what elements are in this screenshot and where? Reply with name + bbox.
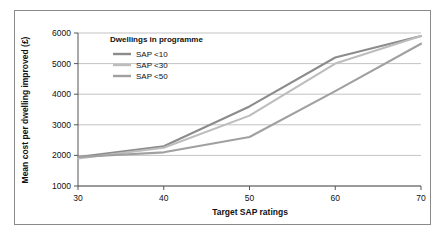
x-tick-label: 30	[73, 193, 83, 203]
series-line	[78, 44, 421, 157]
y-tick-label: 2000	[52, 150, 71, 160]
x-axis-ticks: 3040506070	[73, 186, 426, 203]
x-tick-label: 70	[416, 193, 426, 203]
x-tick-label: 50	[245, 193, 255, 203]
x-tick-label: 40	[159, 193, 169, 203]
y-tick-label: 6000	[52, 28, 71, 38]
y-tick-label: 5000	[52, 59, 71, 69]
legend-items: SAP <10SAP <30SAP <50	[113, 50, 168, 81]
chart-plot-wrapper: 100020003000400050006000 3040506070 Mean…	[0, 0, 447, 241]
y-tick-label: 4000	[52, 89, 71, 99]
gridlines	[78, 33, 421, 186]
figure-container: 100020003000400050006000 3040506070 Mean…	[0, 0, 447, 241]
y-tick-label: 3000	[52, 120, 71, 130]
legend-title: Dwellings in programme	[110, 35, 203, 44]
legend-label: SAP <10	[136, 50, 168, 59]
y-axis-ticks: 100020003000400050006000	[52, 28, 78, 191]
chart-legend: Dwellings in programme SAP <10SAP <30SAP…	[110, 35, 203, 81]
x-axis-title: Target SAP ratings	[212, 207, 288, 217]
y-tick-label: 1000	[52, 181, 71, 191]
legend-label: SAP <30	[136, 61, 168, 70]
x-tick-label: 60	[331, 193, 341, 203]
line-chart: 100020003000400050006000 3040506070 Mean…	[0, 0, 447, 241]
legend-label: SAP <50	[136, 72, 168, 81]
y-axis-title: Mean cost per dwelling improved (£)	[20, 36, 30, 183]
